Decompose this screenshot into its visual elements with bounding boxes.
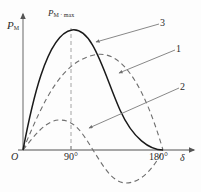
power-angle-characteristic-figure: PM PM · max O 90° 180° δ 3 1 2	[0, 0, 201, 192]
x-axis-label: δ	[180, 153, 185, 163]
y-axis-label: PM	[7, 20, 19, 31]
curve-label-3: 3	[160, 18, 165, 28]
y-axis-label-main: P	[7, 19, 14, 31]
origin-label: O	[11, 152, 18, 162]
curve-2-path	[23, 120, 163, 183]
curve-label-2: 2	[180, 82, 185, 92]
peak-value-label: PM · max	[48, 9, 74, 18]
x-tick-label-90: 90°	[64, 152, 78, 162]
curve-label-1: 1	[176, 44, 181, 54]
curve-3-path	[23, 30, 163, 150]
chart-canvas	[0, 0, 201, 192]
leader-line-curve-1	[119, 50, 175, 73]
leader-line-curve-3	[96, 24, 159, 42]
leader-line-curve-2	[89, 88, 179, 128]
x-tick-label-180: 180°	[149, 152, 168, 162]
y-axis-label-subscript: M	[14, 25, 19, 31]
peak-label-subscript: M · max	[54, 12, 75, 18]
